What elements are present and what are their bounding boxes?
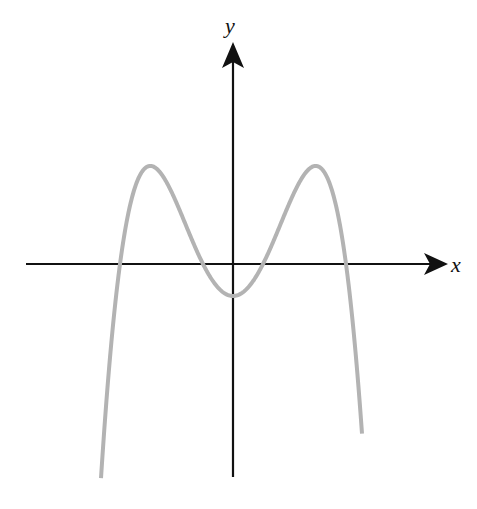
quartic-curve [101, 166, 362, 478]
function-graph: x y [0, 0, 477, 509]
x-axis-label: x [450, 252, 461, 277]
y-axis-label: y [223, 13, 235, 38]
